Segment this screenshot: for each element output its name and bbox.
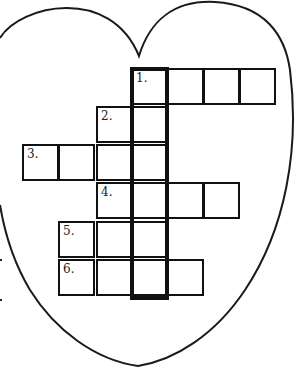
crossword-cell[interactable]: 4. [96, 182, 133, 219]
margin-mark-icon [0, 259, 2, 261]
crossword-cell[interactable] [131, 144, 168, 181]
crossword-cell[interactable] [96, 221, 133, 258]
crossword-cell[interactable] [203, 68, 240, 105]
crossword-cell[interactable] [203, 182, 240, 219]
crossword-cell[interactable] [167, 259, 204, 296]
crossword-cell[interactable]: 3. [22, 144, 59, 181]
crossword-cell[interactable] [58, 144, 95, 181]
clue-number: 2. [101, 110, 112, 122]
crossword-cell[interactable] [96, 259, 133, 296]
crossword-cell[interactable] [131, 259, 168, 296]
crossword-cell[interactable]: 2. [96, 106, 133, 143]
clue-number: 6. [63, 263, 74, 275]
crossword-cell[interactable] [239, 68, 276, 105]
crossword-cell[interactable] [96, 144, 133, 181]
crossword-cell[interactable]: 6. [58, 259, 95, 296]
clue-number: 3. [27, 148, 38, 160]
clue-number: 5. [63, 225, 74, 237]
crossword-cell[interactable] [167, 68, 204, 105]
crossword-cell[interactable] [167, 182, 204, 219]
clue-number: 1. [136, 72, 147, 84]
crossword-cell[interactable]: 1. [131, 68, 168, 105]
margin-mark-icon [0, 299, 2, 301]
crossword-cell[interactable] [131, 182, 168, 219]
crossword-cell[interactable] [131, 106, 168, 143]
clue-number: 4. [101, 186, 112, 198]
crossword-cell[interactable]: 5. [58, 221, 95, 258]
crossword-cell[interactable] [131, 221, 168, 258]
